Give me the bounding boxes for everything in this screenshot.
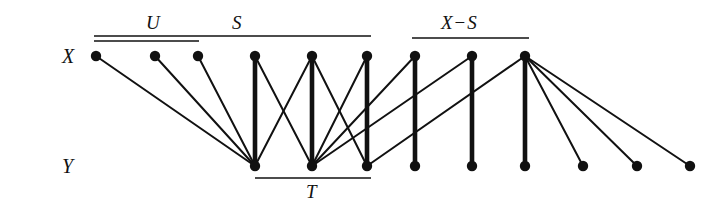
graph-node-x8[interactable]	[467, 51, 477, 61]
graph-node-y8[interactable]	[632, 161, 642, 171]
graph-node-x9[interactable]	[520, 51, 530, 61]
graph-node-x6[interactable]	[362, 51, 372, 61]
set-label-x-minus-s-left: X	[441, 12, 453, 33]
graph-node-x3[interactable]	[193, 51, 203, 61]
graph-canvas	[0, 0, 724, 208]
bipartite-graph-figure: X Y U S X−S T	[0, 0, 724, 208]
graph-node-y6[interactable]	[520, 161, 530, 171]
graph-edge-x7-y2	[312, 56, 415, 166]
graph-edges-layer	[96, 56, 690, 166]
row-label-x: X	[62, 46, 74, 66]
graph-node-y5[interactable]	[467, 161, 477, 171]
graph-node-y4[interactable]	[410, 161, 420, 171]
set-label-s: S	[232, 13, 242, 32]
graph-edge-x9-y8	[525, 56, 637, 166]
graph-node-x2[interactable]	[150, 51, 160, 61]
set-label-u: U	[146, 13, 160, 32]
graph-edge-x9-y9	[525, 56, 690, 166]
graph-node-x7[interactable]	[410, 51, 420, 61]
graph-node-y2[interactable]	[307, 161, 317, 171]
minus-operator-icon: −	[453, 12, 468, 33]
graph-edge-x9-y7	[525, 56, 583, 166]
graph-node-y1[interactable]	[250, 161, 260, 171]
set-label-t: T	[306, 182, 317, 201]
row-label-y: Y	[62, 156, 73, 176]
graph-node-x1[interactable]	[91, 51, 101, 61]
graph-node-y9[interactable]	[685, 161, 695, 171]
graph-node-y3[interactable]	[362, 161, 372, 171]
graph-node-x5[interactable]	[307, 51, 317, 61]
graph-edge-x2-y1	[155, 56, 255, 166]
set-label-x-minus-s-right: S	[467, 12, 477, 33]
graph-edge-x3-y1	[198, 56, 255, 166]
graph-edge-x1-y1	[96, 56, 255, 166]
graph-node-y7[interactable]	[578, 161, 588, 171]
set-label-x-minus-s: X−S	[441, 13, 477, 32]
graph-node-x4[interactable]	[250, 51, 260, 61]
